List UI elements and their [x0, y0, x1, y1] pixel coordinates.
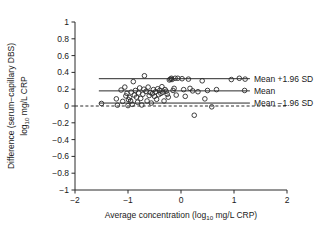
data-point-marker: [142, 73, 147, 78]
label-upper-loa: Mean +1.96 SD: [254, 74, 313, 84]
data-point-marker: [203, 97, 208, 102]
data-point-marker: [131, 79, 136, 84]
data-point-marker: [192, 113, 197, 118]
reference-line-labels: Mean +1.96 SDMeanMean −1.96 SD: [254, 74, 313, 108]
data-points: [99, 73, 247, 117]
data-point-marker: [196, 89, 201, 94]
x-tick-label: −2: [70, 195, 80, 205]
data-point-marker: [123, 85, 128, 90]
data-point-marker: [165, 92, 170, 97]
x-tick-label: −1: [123, 195, 133, 205]
bland-altman-figure: 10.80.60.40.20−0.2−0.4−0.6−0.8−1 −2−1012…: [0, 0, 336, 230]
y-axis-title-line1: Difference (serum−capillary DBS): [6, 43, 16, 169]
data-point-marker: [166, 95, 171, 100]
y-tick-label: 0.8: [57, 34, 69, 44]
y-tick-label: −0.2: [52, 118, 69, 128]
data-point-marker: [174, 93, 179, 98]
data-point-marker: [183, 94, 188, 99]
y-tick-label: 0.6: [57, 51, 69, 61]
y-tick-label: 0.2: [57, 84, 69, 94]
y-tick-label: −0.6: [52, 151, 69, 161]
y-tick-label: 1: [64, 17, 69, 27]
y-tick-label: 0.4: [57, 67, 69, 77]
x-tick-label: 1: [232, 195, 237, 205]
y-tick-label: −0.4: [52, 135, 69, 145]
scatter-plot-canvas: 10.80.60.40.20−0.2−0.4−0.6−0.8−1 −2−1012…: [0, 0, 336, 230]
data-point-marker: [114, 97, 119, 102]
y-axis-title-line2: log10 mg/L CRP: [19, 76, 30, 136]
x-tick-label: 0: [179, 195, 184, 205]
data-point-marker: [146, 85, 151, 90]
label-mean: Mean: [254, 86, 276, 96]
y-tick-label: −0.8: [52, 168, 69, 178]
x-axis-tick-labels: −2−1012: [70, 195, 289, 205]
y-axis-tick-labels: 10.80.60.40.20−0.2−0.4−0.6−0.8−1: [52, 17, 69, 195]
x-tick-label: 2: [285, 195, 290, 205]
data-point-marker: [209, 105, 214, 110]
y-tick-label: −1: [59, 185, 69, 195]
data-point-marker: [229, 77, 234, 82]
label-lower-loa: Mean −1.96 SD: [254, 98, 313, 108]
y-tick-label: 0: [64, 101, 69, 111]
x-axis-title: Average concentration (log10 mg/L CRP): [105, 210, 258, 221]
